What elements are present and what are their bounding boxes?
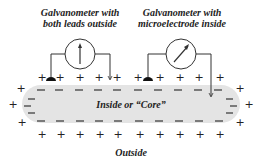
svg-text:+: + bbox=[175, 71, 184, 84]
svg-text:+: + bbox=[94, 71, 103, 84]
outer-positive-charges-top: +++++ +++++ bbox=[37, 71, 224, 84]
svg-text:+: + bbox=[17, 116, 26, 129]
left-galvanometer-label-line1: Galvanometer with bbox=[41, 7, 120, 18]
svg-text:+: + bbox=[155, 128, 164, 141]
membrane-potential-diagram: Galvanometer with both leads outside Gal… bbox=[0, 0, 264, 162]
svg-text:+: + bbox=[16, 82, 25, 95]
svg-text:+: + bbox=[113, 128, 122, 141]
svg-text:+: + bbox=[175, 128, 184, 141]
svg-text:+: + bbox=[215, 128, 224, 141]
left-galvanometer-label-line2: both leads outside bbox=[43, 18, 117, 29]
electrode-icon bbox=[143, 77, 153, 81]
svg-text:+: + bbox=[112, 71, 121, 84]
svg-text:+: + bbox=[244, 98, 253, 111]
svg-text:+: + bbox=[95, 128, 104, 141]
svg-text:+: + bbox=[235, 116, 244, 129]
svg-text:+: + bbox=[37, 128, 46, 141]
svg-text:+: + bbox=[75, 128, 84, 141]
svg-text:+: + bbox=[135, 128, 144, 141]
svg-text:+: + bbox=[235, 82, 244, 95]
outside-label: Outside bbox=[115, 147, 147, 158]
svg-text:+: + bbox=[56, 128, 65, 141]
outer-positive-charges-bottom: +++++ +++++ bbox=[37, 128, 224, 141]
svg-text:+: + bbox=[37, 71, 46, 84]
svg-text:+: + bbox=[133, 71, 142, 84]
svg-text:+: + bbox=[155, 71, 164, 84]
svg-text:+: + bbox=[8, 98, 17, 111]
core-label: Inside or “Core” bbox=[95, 99, 165, 110]
svg-text:+: + bbox=[195, 128, 204, 141]
svg-text:+: + bbox=[215, 71, 224, 84]
right-galvanometer-label-line1: Galvanometer with bbox=[143, 7, 222, 18]
svg-text:+: + bbox=[194, 71, 203, 84]
svg-text:+: + bbox=[55, 71, 64, 84]
right-galvanometer-label-line2: microelectrode inside bbox=[138, 18, 227, 29]
svg-text:+: + bbox=[75, 71, 84, 84]
